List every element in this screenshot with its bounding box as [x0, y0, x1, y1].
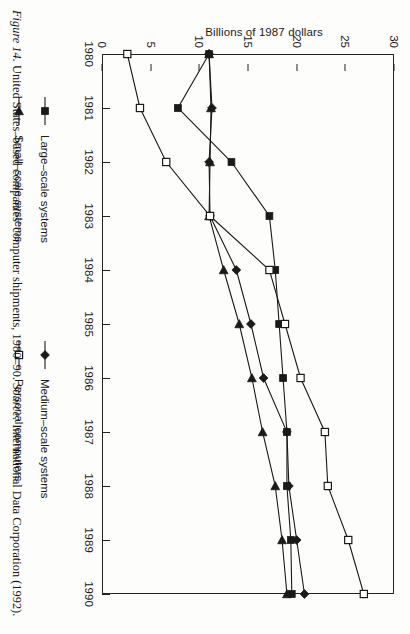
x-axis-tick-label: 1982 [83, 149, 95, 175]
x-axis-tick-label: 1980 [83, 41, 95, 67]
series-group [175, 51, 296, 598]
figure-caption: Figure 14. United States–based companies… [9, 10, 25, 626]
rotated-figure-container: Billions of 1987 dollars 051015202530 19… [0, 0, 410, 634]
filled-triangle-marker [258, 428, 267, 436]
series-canvas [102, 54, 394, 594]
filled-triangle-marker [278, 536, 287, 544]
x-axis-tick-label: 1990 [83, 581, 95, 607]
filled-triangle-marker [219, 266, 228, 274]
filled-square-marker [228, 159, 235, 166]
legend-item-label: Medium–scale systems [39, 379, 51, 499]
x-axis-tick-label: 1985 [83, 311, 95, 337]
y-axis-tick-label: 0 [96, 42, 108, 48]
open-square-marker [136, 104, 143, 111]
caption-source-text: International Data Corporation (1992). [10, 424, 24, 616]
open-square-marker [297, 374, 304, 381]
legend-item[interactable]: Large–scale systems [32, 96, 58, 322]
x-axis-tick-mark [102, 162, 110, 163]
open-square-marker [124, 50, 131, 57]
series-line [127, 54, 364, 594]
filled-square-marker [175, 105, 182, 112]
x-axis-tick-mark [102, 378, 110, 379]
y-axis-tick-label: 15 [242, 35, 254, 48]
filled-triangle-marker [247, 374, 256, 382]
legend-item[interactable]: Medium–scale systems [32, 340, 58, 566]
caption-figure-number: Figure 14. [10, 10, 24, 62]
y-axis-tick-label: 30 [388, 35, 400, 48]
x-axis-tick-mark [102, 108, 110, 109]
filled-diamond-marker [232, 266, 241, 275]
series-group [124, 50, 368, 597]
x-axis-tick-mark [102, 216, 110, 217]
series-line [209, 54, 304, 594]
open-square-marker [206, 212, 213, 219]
open-square-marker [345, 536, 352, 543]
legend-swatch [38, 96, 52, 126]
filled-square-marker [42, 108, 49, 115]
x-axis-tick-mark [102, 54, 110, 55]
x-axis-tick-label: 1986 [83, 365, 95, 391]
x-axis-tick-label: 1988 [83, 473, 95, 499]
open-square-marker [281, 320, 288, 327]
y-axis-tick-label: 20 [291, 35, 303, 48]
open-square-marker [324, 482, 331, 489]
filled-diamond-marker [259, 374, 268, 383]
y-axis-tick-label: 10 [193, 35, 205, 48]
legend-swatch [38, 340, 52, 370]
filled-triangle-marker [235, 320, 244, 328]
filled-diamond-marker [300, 590, 309, 599]
open-square-marker [163, 158, 170, 165]
x-axis-tick-label: 1984 [83, 257, 95, 283]
y-axis-tick-label: 25 [339, 35, 351, 48]
series-line [178, 54, 292, 594]
x-axis-tick-mark [102, 270, 110, 271]
x-axis-tick-label: 1983 [83, 203, 95, 229]
x-axis-tick-mark [102, 486, 110, 487]
plot-area [102, 54, 394, 594]
filled-square-marker [266, 213, 273, 220]
filled-diamond-marker [247, 320, 256, 329]
filled-square-marker [280, 375, 287, 382]
x-axis-tick-mark [102, 540, 110, 541]
x-axis-tick-group: 1980198119821983198419851986198719881989… [62, 54, 102, 594]
x-axis-tick-label: 1981 [83, 95, 95, 121]
figure-page: Billions of 1987 dollars 051015202530 19… [0, 0, 410, 634]
y-axis-tick-group: 051015202530 [102, 10, 394, 48]
series-group [205, 50, 309, 599]
y-axis-tick-label: 5 [145, 42, 157, 48]
caption-source-label: Source: [10, 383, 24, 421]
x-axis-tick-mark [102, 432, 110, 433]
filled-triangle-marker [271, 482, 280, 490]
x-axis-tick-mark [102, 594, 110, 595]
x-axis-tick-label: 1989 [83, 527, 95, 553]
caption-title: United States–based companies' computer … [10, 65, 24, 380]
legend-item-label: Large–scale systems [39, 135, 51, 243]
figure-body: Billions of 1987 dollars 051015202530 19… [0, 0, 410, 634]
x-axis-tick-label: 1987 [83, 419, 95, 445]
open-square-marker [321, 428, 328, 435]
x-axis-tick-mark [102, 324, 110, 325]
filled-diamond-marker [41, 351, 50, 360]
open-square-marker [360, 590, 367, 597]
open-square-marker [266, 266, 273, 273]
